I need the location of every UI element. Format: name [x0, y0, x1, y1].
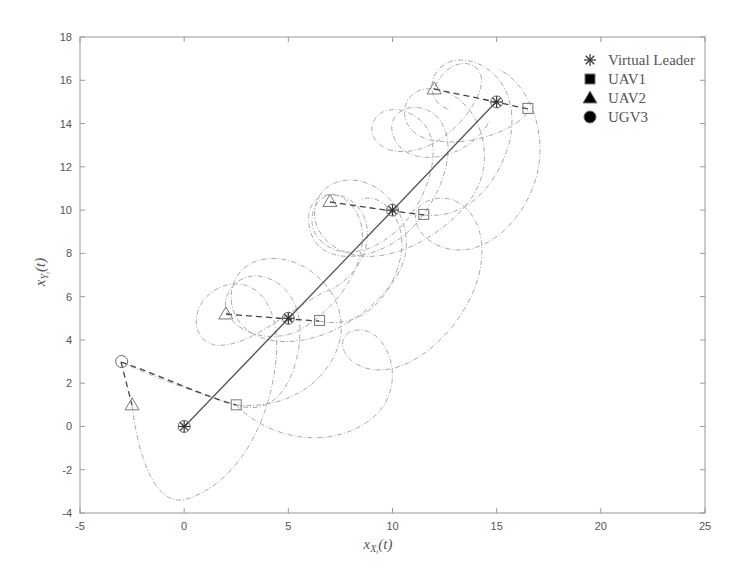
triangle-marker [583, 91, 597, 103]
y-tick-label: 18 [60, 31, 72, 43]
x-tick-label: 15 [491, 520, 503, 532]
x-tick-label: 0 [181, 520, 187, 532]
legend-label: UGV3 [608, 109, 648, 125]
y-tick-label: 8 [66, 247, 72, 259]
x-tick-label: 5 [285, 520, 291, 532]
legend-label: UAV1 [608, 71, 646, 87]
x-tick-label: 20 [595, 520, 607, 532]
y-tick-label: 6 [66, 291, 72, 303]
legend: Virtual LeaderUAV1UAV2UGV3 [583, 52, 695, 125]
y-tick-label: -2 [62, 464, 72, 476]
x-tick-label: 25 [699, 520, 711, 532]
legend-label: UAV2 [608, 90, 646, 106]
leader-path [184, 102, 496, 427]
x-tick-label: -5 [75, 520, 85, 532]
y-tick-label: 12 [60, 161, 72, 173]
y-tick-label: 0 [66, 420, 72, 432]
legend-label: Virtual Leader [608, 52, 695, 68]
circle-marker [584, 111, 596, 123]
y-tick-label: 2 [66, 377, 72, 389]
trajectories [121, 60, 540, 500]
formation-links [121, 89, 528, 405]
y-tick-label: 16 [60, 74, 72, 86]
y-tick-label: 4 [66, 334, 72, 346]
asterisk-marker [584, 54, 596, 66]
chart: -50510152025 -4-2024681012141618 Virtual… [0, 0, 746, 584]
y-tick-label: 14 [60, 118, 72, 130]
triangle-marker [427, 82, 441, 94]
x-axis-label: xXi(t) [363, 536, 393, 556]
square-marker [585, 74, 595, 84]
y-tick-label: 10 [60, 204, 72, 216]
x-tick-label: 10 [386, 520, 398, 532]
y-axis-label: xYi(t) [32, 258, 52, 287]
y-tick-label: -4 [62, 507, 72, 519]
markers [116, 82, 533, 433]
